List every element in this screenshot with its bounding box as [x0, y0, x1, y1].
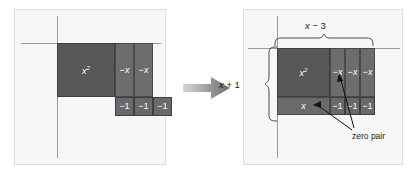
tile-label-negative-one: −1 [157, 102, 168, 111]
tile-negative-x: −x [115, 43, 134, 97]
tile-label-negative-one: −1 [138, 102, 149, 111]
figure-canvas: x2 −x −x −1 −1 −1 [0, 0, 415, 174]
tile-label-negative-x: −x [138, 66, 148, 75]
tile-label-negative-x: −x [119, 66, 129, 75]
height-brace [265, 46, 277, 122]
tile-label-x-squared: x2 [82, 65, 90, 76]
tile-negative-one: −1 [153, 97, 172, 116]
height-label: x + 1 [219, 79, 240, 90]
tile-x-squared: x2 [57, 43, 115, 97]
tile-negative-one: −1 [115, 97, 134, 116]
left-panel: x2 −x −x −1 −1 −1 [14, 9, 166, 165]
width-brace [274, 34, 374, 46]
tile-negative-x: −x [134, 43, 153, 97]
zero-pair-label: zero pair [352, 131, 385, 141]
zero-pair-leader-lines [280, 60, 390, 138]
tile-label-negative-one: −1 [119, 102, 130, 111]
width-label: x − 3 [305, 20, 326, 31]
tile-negative-one: −1 [134, 97, 153, 116]
